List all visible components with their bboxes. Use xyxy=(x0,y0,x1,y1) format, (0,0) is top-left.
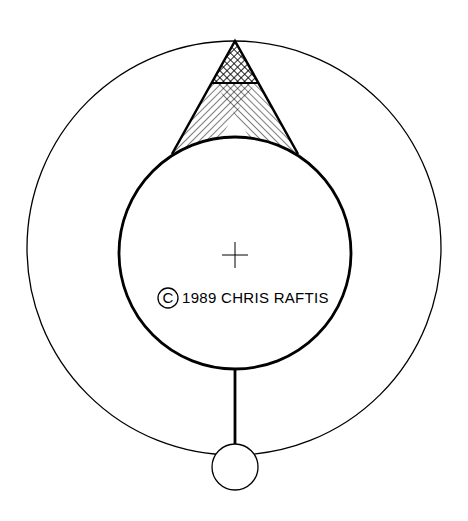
caption: 1989 CHRIS RAFTIS xyxy=(182,289,329,306)
pendulum-bob xyxy=(212,444,258,490)
logo-drawing: C 1989 CHRIS RAFTIS xyxy=(0,0,468,521)
copyright-letter: C xyxy=(163,289,174,306)
